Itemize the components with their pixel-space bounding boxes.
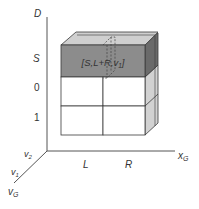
row-label-1: 1 xyxy=(34,112,40,123)
row-label-0: 0 xyxy=(34,82,40,93)
column-label-R: R xyxy=(125,159,132,170)
x-axis-label: xG xyxy=(177,150,189,162)
depth-label-v1: v1 xyxy=(11,167,19,178)
cell-1-L xyxy=(61,106,103,135)
v-axis-label: vG xyxy=(8,186,19,198)
depth-label-v2: v2 xyxy=(24,149,33,160)
cell-0-R xyxy=(103,77,145,106)
olap-cube-diagram: [S,L+R,v1] D xG vG S 0 1 L R v2 v1 xyxy=(0,0,199,209)
cube-top-face xyxy=(61,32,158,45)
d-axis-label: D xyxy=(34,8,41,19)
column-label-L: L xyxy=(83,159,89,170)
row-label-S: S xyxy=(33,53,40,64)
highlighted-cell-label: [S,L+R,v1] xyxy=(81,57,125,69)
cell-1-R xyxy=(103,106,145,135)
cell-0-L xyxy=(61,77,103,106)
